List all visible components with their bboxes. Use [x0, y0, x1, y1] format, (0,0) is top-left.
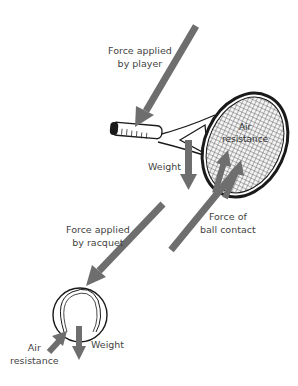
- racquet-head: [186, 79, 298, 211]
- label-line: Air: [222, 121, 268, 133]
- tennis-racquet: [109, 79, 298, 211]
- label-line: ball contact: [200, 223, 256, 236]
- arrow-force-player: [135, 26, 196, 127]
- label-line: Force of: [200, 210, 256, 223]
- label-line: by racquet: [66, 236, 130, 249]
- label-line: Force applied: [66, 223, 130, 236]
- label-force-ball-contact: Force of ball contact: [200, 210, 256, 236]
- label-air-resistance-ball: Air resistance: [10, 341, 59, 367]
- label-line: resistance: [10, 354, 59, 367]
- label-weight-racquet: Weight: [148, 160, 181, 173]
- label-force-racquet: Force applied by racquet: [66, 223, 130, 249]
- label-line: Air: [10, 341, 59, 354]
- label-force-player: Force applied by player: [108, 44, 172, 70]
- label-line: Force applied: [108, 44, 172, 57]
- label-line: resistance: [222, 133, 268, 145]
- label-weight-ball: Weight: [91, 338, 124, 351]
- label-air-resistance-racquet: Air resistance: [222, 121, 268, 145]
- label-line: by player: [108, 57, 172, 70]
